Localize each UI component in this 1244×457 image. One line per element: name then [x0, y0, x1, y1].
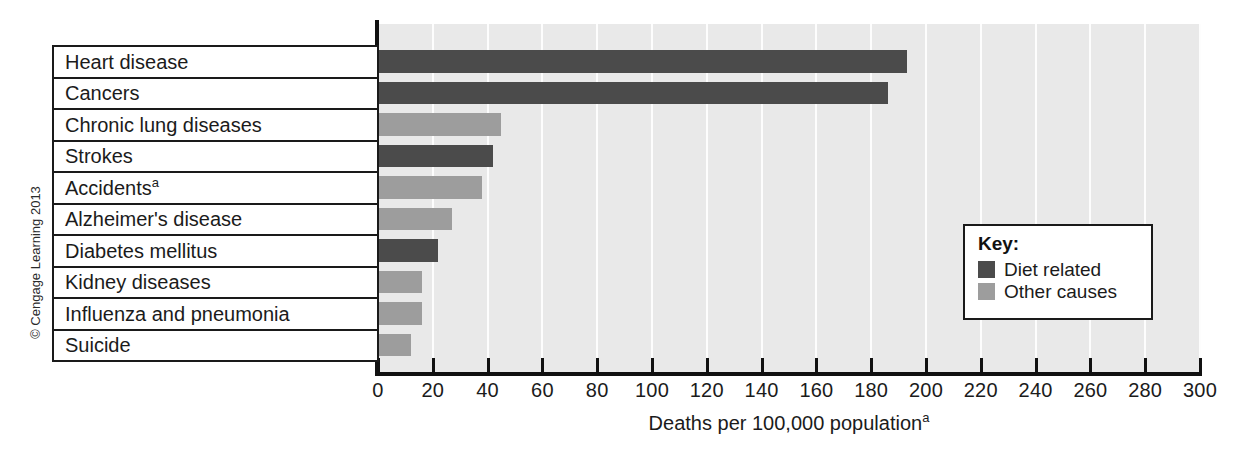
x-tick-mark [706, 358, 709, 374]
copyright-notice: © Cengage Learning 2013 [28, 178, 43, 348]
category-label: Accidentsa [65, 178, 159, 198]
x-tick-mark [815, 358, 818, 374]
category-label: Kidney diseases [65, 272, 211, 292]
category-label: Cancers [65, 83, 139, 103]
x-tick-label: 160 [786, 379, 846, 402]
x-tick-label: 20 [403, 379, 463, 402]
legend-item: Other causes [978, 282, 1151, 302]
category-row: Kidney diseases [54, 268, 377, 300]
x-tick-label: 140 [732, 379, 792, 402]
gridline [815, 24, 817, 372]
x-tick-mark [432, 358, 435, 374]
gridline [1199, 24, 1201, 372]
category-row: Suicide [54, 331, 377, 363]
x-tick-mark [541, 358, 544, 374]
figure-root: 0204060801001201401601802002202402602803… [0, 0, 1244, 457]
legend-title: Key: [978, 233, 1151, 255]
x-tick-label: 40 [458, 379, 518, 402]
bar [378, 239, 438, 262]
bar [378, 176, 482, 199]
legend-label: Diet related [1004, 260, 1101, 280]
legend-swatch [978, 261, 995, 278]
legend-swatch [978, 283, 995, 300]
gridline [596, 24, 598, 372]
category-label: Diabetes mellitus [65, 241, 217, 261]
x-tick-mark [980, 358, 983, 374]
legend-box: Key: Diet relatedOther causes [963, 224, 1153, 320]
legend-items: Diet relatedOther causes [978, 260, 1151, 302]
category-label: Strokes [65, 146, 133, 166]
x-tick-label: 240 [1006, 379, 1066, 402]
bar [378, 145, 493, 168]
x-axis-line [375, 372, 1202, 376]
category-row: Accidentsa [54, 173, 377, 205]
gridline [651, 24, 653, 372]
x-tick-mark [1199, 358, 1202, 374]
x-tick-label: 80 [567, 379, 627, 402]
category-label: Influenza and pneumonia [65, 304, 290, 324]
x-tick-mark [870, 358, 873, 374]
gridline [706, 24, 708, 372]
x-tick-mark [1144, 358, 1147, 374]
category-row: Cancers [54, 79, 377, 111]
x-axis-title: Deaths per 100,000 populationa [378, 412, 1200, 435]
gridline [761, 24, 763, 372]
x-axis-title-footnote: a [922, 410, 929, 425]
x-tick-mark [1035, 358, 1038, 374]
category-row: Chronic lung diseases [54, 110, 377, 142]
category-label: Alzheimer's disease [65, 209, 242, 229]
category-row: Alzheimer's disease [54, 205, 377, 237]
x-axis-title-text: Deaths per 100,000 population [649, 412, 923, 434]
category-row: Strokes [54, 142, 377, 174]
gridline [925, 24, 927, 372]
category-row: Influenza and pneumonia [54, 299, 377, 331]
gridline [870, 24, 872, 372]
bar [378, 82, 888, 105]
x-tick-mark [596, 358, 599, 374]
legend-item: Diet related [978, 260, 1151, 280]
x-tick-label: 200 [896, 379, 956, 402]
x-tick-label: 260 [1060, 379, 1120, 402]
x-tick-mark [925, 358, 928, 374]
x-tick-label: 60 [512, 379, 572, 402]
gridline [487, 24, 489, 372]
category-label: Suicide [65, 335, 131, 355]
legend-label: Other causes [1004, 282, 1117, 302]
x-tick-label: 120 [677, 379, 737, 402]
bar [378, 302, 422, 325]
category-label: Chronic lung diseases [65, 115, 262, 135]
x-tick-label: 0 [348, 379, 408, 402]
x-tick-mark [1089, 358, 1092, 374]
gridline [541, 24, 543, 372]
x-tick-label: 180 [841, 379, 901, 402]
x-tick-label: 280 [1115, 379, 1175, 402]
x-tick-label: 100 [622, 379, 682, 402]
x-tick-mark [761, 358, 764, 374]
bar [378, 113, 501, 136]
category-label-table: Heart diseaseCancersChronic lung disease… [52, 45, 379, 362]
x-tick-label: 220 [951, 379, 1011, 402]
category-footnote: a [152, 175, 159, 190]
category-row: Diabetes mellitus [54, 236, 377, 268]
x-tick-label: 300 [1170, 379, 1230, 402]
x-tick-mark [651, 358, 654, 374]
category-row: Heart disease [54, 47, 377, 79]
x-tick-mark [487, 358, 490, 374]
bar [378, 208, 452, 231]
bar [378, 271, 422, 294]
category-label: Heart disease [65, 52, 188, 72]
bar [378, 50, 907, 73]
bar [378, 334, 411, 357]
